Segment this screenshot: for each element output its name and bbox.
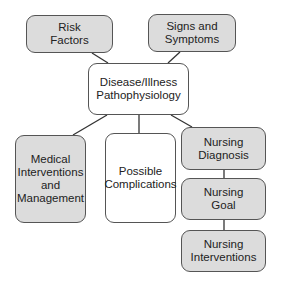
node-medical-interventions: Medical Interventions and Management — [15, 135, 86, 223]
node-nursing-diagnosis: Nursing Diagnosis — [181, 127, 266, 170]
node-disease-pathophysiology: Disease/Illness Pathophysiology — [88, 63, 189, 115]
edge-disease-to-diagnosis — [171, 115, 192, 127]
node-nursing-interventions: Nursing Interventions — [181, 230, 266, 272]
node-risk-factors: Risk Factors — [26, 15, 113, 53]
edge-risk-to-disease — [92, 53, 108, 63]
node-nursing-goal: Nursing Goal — [181, 178, 266, 220]
node-possible-complications: Possible Complications — [105, 133, 176, 223]
edge-disease-to-medical — [73, 115, 107, 135]
edge-signs-to-disease — [168, 52, 180, 63]
node-signs-and-symptoms: Signs and Symptoms — [148, 14, 236, 52]
